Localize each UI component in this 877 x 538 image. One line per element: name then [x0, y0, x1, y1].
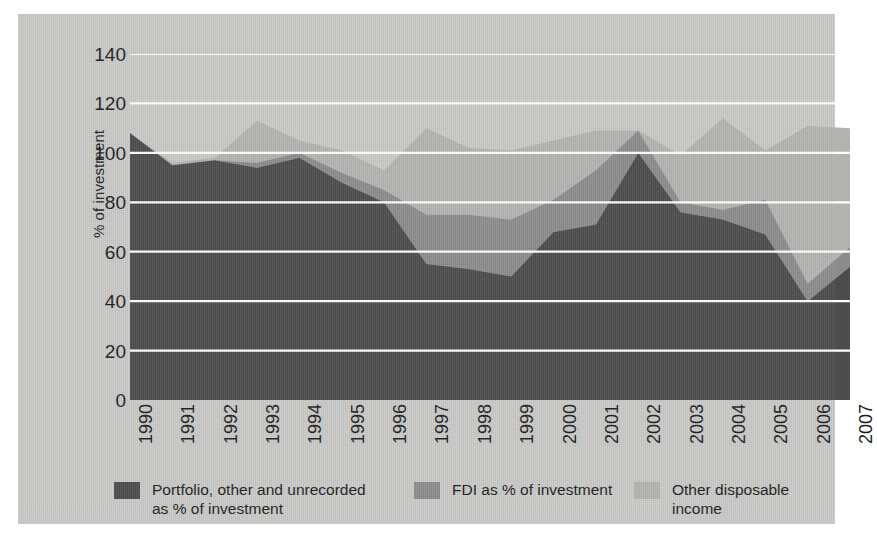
area-series-group	[130, 118, 850, 400]
x-tick-label: 1999	[517, 404, 538, 478]
y-tick-label: 80	[62, 193, 126, 212]
y-tick-label: 40	[62, 292, 126, 311]
x-tick-label: 2007	[856, 404, 877, 478]
legend-label: Portfolio, other and unrecorded as % of …	[152, 480, 366, 518]
legend-swatch-icon	[414, 482, 440, 499]
legend-item[interactable]: Portfolio, other and unrecorded as % of …	[114, 480, 366, 518]
x-tick-label: 1998	[475, 404, 496, 478]
x-tick-label: 1993	[263, 404, 284, 478]
legend-label: FDI as % of investment	[452, 480, 612, 499]
x-tick-label: 1995	[348, 404, 369, 478]
x-tick-label: 2003	[687, 404, 708, 478]
chart-panel: % of investment 020406080100120140 19901…	[18, 14, 835, 524]
x-axis-ticks: 1990199119921993199419951996199719981999…	[130, 406, 850, 486]
x-tick-label: 2004	[729, 404, 750, 478]
legend-swatch-icon	[634, 482, 660, 499]
plot-area	[130, 54, 850, 400]
y-tick-label: 0	[62, 391, 126, 410]
legend-swatch-icon	[114, 482, 140, 499]
y-axis-ticks: 020406080100120140	[50, 14, 126, 538]
x-tick-label: 1991	[178, 404, 199, 478]
x-tick-label: 2001	[602, 404, 623, 478]
x-tick-label: 2000	[560, 404, 581, 478]
legend-item[interactable]: Other disposable income	[634, 480, 834, 518]
x-tick-label: 1992	[221, 404, 242, 478]
x-tick-label: 2002	[644, 404, 665, 478]
x-tick-label: 1997	[432, 404, 453, 478]
y-tick-label: 120	[62, 94, 126, 113]
x-tick-label: 1996	[390, 404, 411, 478]
legend-item[interactable]: FDI as % of investment	[414, 480, 612, 499]
chart-legend: Portfolio, other and unrecorded as % of …	[114, 480, 834, 530]
x-tick-label: 2006	[814, 404, 835, 478]
y-tick-label: 100	[62, 144, 126, 163]
x-tick-label: 2005	[771, 404, 792, 478]
stacked-area-svg	[130, 54, 850, 400]
y-tick-label: 140	[62, 45, 126, 64]
y-tick-label: 60	[62, 243, 126, 262]
x-tick-label: 1990	[136, 404, 157, 478]
y-tick-label: 20	[62, 342, 126, 361]
legend-label: Other disposable income	[672, 480, 834, 518]
x-tick-label: 1994	[305, 404, 326, 478]
